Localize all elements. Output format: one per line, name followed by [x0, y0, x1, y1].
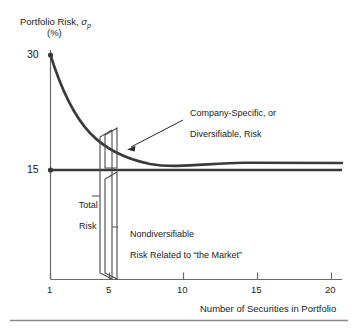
total-risk-annotation: Total Risk [69, 189, 98, 242]
y-tick-label-30: 30 [27, 48, 39, 60]
company-specific-risk-line2: Diversifiable, Risk [190, 129, 262, 139]
x-axis-ticks [51, 273, 332, 280]
x-tick-label-20: 20 [325, 284, 336, 295]
sigma-subscript: p [87, 22, 91, 29]
x-axis-title: Number of Securities in Portfolio [200, 303, 336, 314]
total-risk-bracket [100, 130, 112, 279]
x-tick-label-10: 10 [177, 284, 188, 295]
company-specific-risk-line1: Company-Specific, or [190, 108, 276, 118]
company-specific-risk-annotation: Company-Specific, or Diversifiable, Risk [180, 97, 276, 150]
nondiversifiable-risk-bracket [105, 172, 117, 279]
risk-diversification-chart [0, 0, 358, 331]
y-tick-label-15: 15 [27, 163, 39, 175]
nondiversifiable-risk-line2: Risk Related to “the Market” [130, 250, 242, 260]
y-axis-label-text: Portfolio Risk, [20, 16, 81, 27]
figure-container: Portfolio Risk, σp (%) 30 15 1 5 10 15 2… [0, 0, 358, 331]
total-risk-line1: Total [79, 200, 98, 210]
total-risk-line2: Risk [79, 221, 97, 231]
nondiversifiable-risk-line1: Nondiversifiable [130, 229, 194, 239]
x-tick-label-1: 1 [47, 284, 52, 295]
y-axis-units: (%) [47, 27, 62, 38]
x-tick-label-15: 15 [251, 284, 262, 295]
company-specific-arrow-line [131, 120, 183, 147]
nondiversifiable-risk-annotation: Nondiversifiable Risk Related to “the Ma… [120, 218, 242, 271]
x-tick-label-5: 5 [106, 284, 111, 295]
